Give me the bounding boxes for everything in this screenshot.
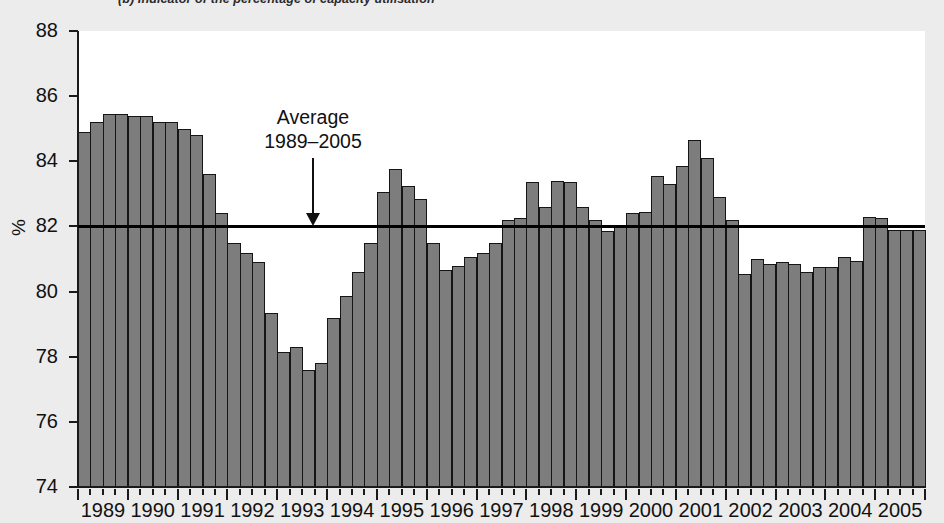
x-tick-minor (887, 489, 889, 495)
y-tick-label: 76 (12, 411, 58, 431)
bar (439, 270, 452, 487)
annotation-line-2: 1989–2005 (238, 129, 388, 153)
bar (315, 363, 328, 487)
bar (340, 296, 353, 487)
bar (402, 186, 415, 487)
average-annotation: Average 1989–2005 (238, 105, 388, 153)
bar (427, 243, 440, 487)
x-tick-minor (202, 489, 204, 495)
bar (265, 313, 278, 487)
x-tick-minor (737, 489, 739, 495)
x-tick-minor (214, 489, 216, 495)
y-tick-label: 88 (12, 20, 58, 40)
x-tick-minor (588, 489, 590, 495)
x-tick-minor (102, 489, 104, 495)
x-tick-minor (152, 489, 154, 495)
x-tick-minor (912, 489, 914, 495)
bar (676, 166, 689, 487)
bar (875, 218, 888, 487)
bar (290, 347, 303, 487)
bar (776, 262, 789, 487)
bar (302, 370, 315, 487)
x-tick-minor (351, 489, 353, 495)
x-tick-minor (289, 489, 291, 495)
x-tick-minor (750, 489, 752, 495)
bar (663, 184, 676, 487)
bar (178, 129, 191, 487)
x-tick-minor (401, 489, 403, 495)
x-tick-minor (114, 489, 116, 495)
bar (825, 267, 838, 487)
bar (701, 158, 714, 487)
bar (763, 264, 776, 487)
bar (576, 207, 589, 487)
bar (227, 243, 240, 487)
bar (651, 176, 664, 487)
bar (165, 122, 178, 487)
x-tick-minor (600, 489, 602, 495)
x-tick-minor (301, 489, 303, 495)
x-tick-minor (513, 489, 515, 495)
bar (788, 264, 801, 487)
y-tick-label: 78 (12, 346, 58, 366)
y-tick (69, 30, 78, 32)
bar (327, 318, 340, 487)
bar (190, 135, 203, 487)
x-tick-minor (501, 489, 503, 495)
y-tick-label: 80 (12, 281, 58, 301)
chart-title: (b) Indicator of the percentage of capac… (118, 0, 818, 6)
bar (364, 243, 377, 487)
x-tick-minor (538, 489, 540, 495)
x-tick-minor (264, 489, 266, 495)
average-reference-line (78, 225, 925, 228)
x-axis (77, 486, 926, 488)
bar (800, 272, 813, 487)
bar (252, 262, 265, 487)
bar (639, 212, 652, 487)
x-tick-minor (849, 489, 851, 495)
bar (103, 114, 116, 487)
bar (888, 230, 901, 487)
y-tick (69, 225, 78, 227)
bar (452, 266, 465, 487)
bar (838, 257, 851, 487)
x-tick-minor (388, 489, 390, 495)
bar (601, 231, 614, 487)
bar (352, 272, 365, 487)
bar (277, 352, 290, 487)
x-tick-minor (812, 489, 814, 495)
x-tick-minor (363, 489, 365, 495)
bar (738, 274, 751, 487)
y-tick-label: 86 (12, 85, 58, 105)
bar (477, 253, 490, 488)
x-tick-minor (451, 489, 453, 495)
x-tick-minor (314, 489, 316, 495)
x-tick-minor (837, 489, 839, 495)
x-tick-minor (164, 489, 166, 495)
bar (389, 169, 402, 487)
bar (140, 116, 153, 487)
chart-root: (b) Indicator of the percentage of capac… (0, 0, 944, 523)
bar (153, 122, 166, 487)
x-tick-minor (251, 489, 253, 495)
bar (215, 213, 228, 487)
bar (863, 217, 876, 487)
x-tick-minor (550, 489, 552, 495)
y-tick-label: 84 (12, 150, 58, 170)
x-tick-minor (239, 489, 241, 495)
x-tick-minor (339, 489, 341, 495)
x-tick-minor (799, 489, 801, 495)
x-tick-minor (463, 489, 465, 495)
bar (115, 114, 128, 487)
bar (489, 243, 502, 487)
x-tick-minor (899, 489, 901, 495)
x-tick-minor (613, 489, 615, 495)
y-tick (69, 356, 78, 358)
bar (626, 213, 639, 487)
bar (514, 218, 527, 487)
x-tick-minor (413, 489, 415, 495)
y-tick (69, 95, 78, 97)
bar (900, 230, 913, 487)
bar (850, 261, 863, 487)
bar (414, 199, 427, 487)
